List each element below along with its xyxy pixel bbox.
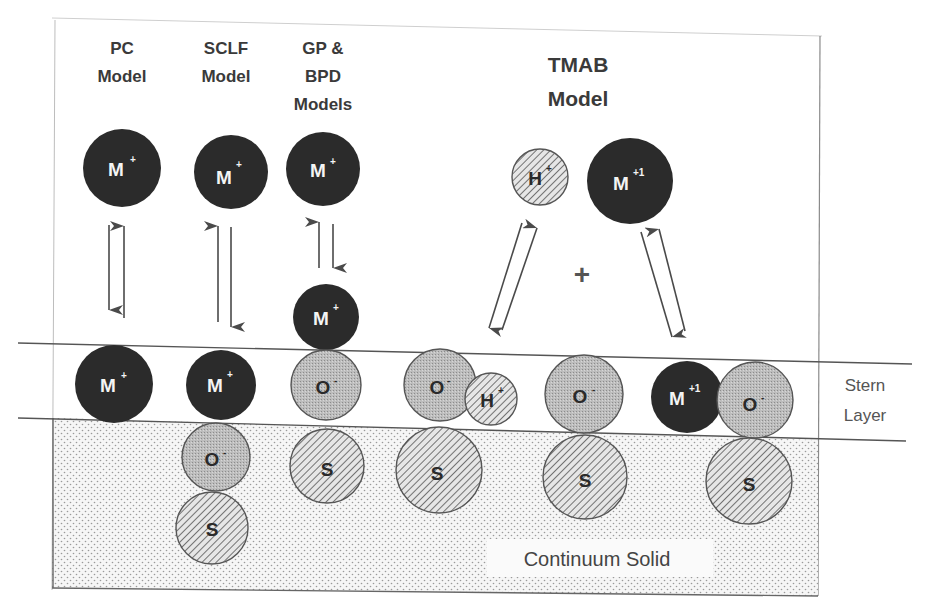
svg-text:-: - bbox=[334, 375, 337, 386]
gp-solid-site: S bbox=[290, 429, 364, 503]
scm-diagram: PC Model SCLF Model GP & BPD Models TMAB… bbox=[0, 0, 931, 605]
sclf-exchange-arrows bbox=[218, 226, 231, 327]
svg-text:S: S bbox=[743, 474, 756, 495]
svg-text:H: H bbox=[528, 168, 542, 189]
svg-text:M: M bbox=[216, 167, 232, 188]
svg-text:Model: Model bbox=[548, 87, 609, 110]
svg-text:+: + bbox=[227, 369, 233, 380]
svg-text:O: O bbox=[316, 377, 331, 398]
pc-adsorbed-metal-ion: M + bbox=[75, 345, 153, 423]
title-gp-bpd-models: GP & BPD Models bbox=[294, 39, 353, 114]
svg-text:Models: Models bbox=[294, 95, 353, 114]
tmab-surface-oxygen-metal-site: O - bbox=[717, 362, 793, 438]
tmab-solid-site-2: S bbox=[543, 435, 627, 519]
svg-text:M: M bbox=[613, 173, 629, 194]
tmab-solution-metal-ion: M +1 bbox=[587, 138, 673, 224]
svg-text:+: + bbox=[130, 154, 136, 165]
svg-text:S: S bbox=[431, 463, 444, 484]
svg-text:PC: PC bbox=[110, 39, 134, 58]
svg-text:+: + bbox=[121, 370, 127, 381]
svg-text:O: O bbox=[743, 394, 758, 415]
svg-text:H: H bbox=[480, 390, 494, 411]
svg-text:+1: +1 bbox=[633, 167, 645, 178]
tmab-metal-exchange-arrows bbox=[641, 229, 685, 337]
sclf-solution-metal-ion: M + bbox=[194, 135, 268, 209]
svg-text:-: - bbox=[761, 392, 764, 403]
svg-text:TMAB: TMAB bbox=[548, 53, 609, 76]
svg-text:M: M bbox=[310, 160, 326, 181]
stern-layer-label: Stern Layer bbox=[844, 376, 887, 425]
gp-adsorbed-metal-ion: M + bbox=[293, 284, 359, 350]
sclf-adsorbed-metal-ion: M + bbox=[186, 350, 256, 420]
svg-text:+: + bbox=[498, 385, 504, 396]
pc-exchange-arrows bbox=[109, 225, 124, 318]
svg-text:-: - bbox=[592, 384, 595, 395]
svg-text:S: S bbox=[579, 470, 592, 491]
svg-text:-: - bbox=[447, 375, 450, 386]
svg-text:O: O bbox=[205, 449, 220, 470]
svg-text:+: + bbox=[330, 156, 336, 167]
svg-text:GP &: GP & bbox=[302, 39, 343, 58]
svg-text:M: M bbox=[108, 159, 124, 180]
svg-text:BPD: BPD bbox=[305, 67, 341, 86]
title-pc-model: PC Model bbox=[97, 39, 146, 86]
plus-sign: + bbox=[574, 259, 590, 290]
tmab-solid-site-3: S bbox=[706, 438, 792, 524]
continuum-solid-label: Continuum Solid bbox=[524, 548, 671, 570]
title-sclf-model: SCLF Model bbox=[201, 39, 250, 86]
svg-text:M: M bbox=[669, 388, 685, 409]
sclf-solid-site: S bbox=[176, 492, 248, 564]
tmab-surface-oxygen-free: O - bbox=[545, 355, 623, 433]
svg-text:M: M bbox=[100, 375, 116, 396]
sclf-surface-oxygen: O - bbox=[182, 423, 250, 491]
tmab-solid-site-1: S bbox=[396, 427, 482, 513]
svg-text:O: O bbox=[430, 377, 445, 398]
tmab-proton-exchange-arrows bbox=[489, 223, 537, 330]
svg-text:-: - bbox=[223, 447, 226, 458]
svg-text:Layer: Layer bbox=[844, 406, 887, 425]
svg-text:+: + bbox=[236, 159, 242, 170]
title-tmab-model: TMAB Model bbox=[548, 53, 609, 110]
tmab-adsorbed-proton: H + bbox=[465, 373, 517, 425]
svg-text:M: M bbox=[313, 308, 329, 329]
svg-text:+1: +1 bbox=[689, 383, 701, 394]
svg-text:Model: Model bbox=[201, 67, 250, 86]
svg-text:SCLF: SCLF bbox=[204, 39, 248, 58]
gp-exchange-arrows bbox=[319, 222, 333, 268]
tmab-adsorbed-metal-ion: M +1 bbox=[651, 361, 723, 433]
svg-text:S: S bbox=[206, 519, 219, 540]
gp-surface-oxygen: O - bbox=[291, 350, 361, 420]
svg-text:Stern: Stern bbox=[845, 376, 886, 395]
gp-solution-metal-ion: M + bbox=[286, 132, 360, 206]
svg-text:O: O bbox=[573, 386, 588, 407]
tmab-solution-proton: H + bbox=[512, 149, 568, 205]
svg-text:M: M bbox=[207, 375, 223, 396]
tmab-surface-oxygen-proton-site: O - bbox=[404, 349, 476, 421]
svg-text:Model: Model bbox=[97, 67, 146, 86]
svg-text:+: + bbox=[333, 302, 339, 313]
pc-solution-metal-ion: M + bbox=[83, 129, 161, 207]
svg-text:S: S bbox=[321, 459, 334, 480]
svg-text:+: + bbox=[546, 163, 552, 174]
